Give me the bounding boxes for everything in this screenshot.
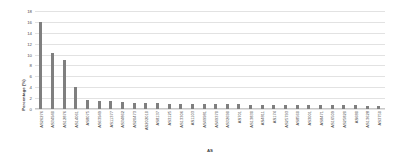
y-axis-tick-label: 16 <box>8 19 32 24</box>
x-label-slot: AS701 <box>233 110 245 148</box>
bar-slot <box>82 11 94 109</box>
bar-slot <box>256 11 268 109</box>
bar <box>377 106 380 109</box>
bar <box>203 104 206 109</box>
bar <box>156 103 159 109</box>
bar-slot <box>291 11 303 109</box>
y-axis-tick-label: 4 <box>8 85 32 90</box>
x-label-slot: AS13830 <box>245 110 257 148</box>
x-axis-tick-label: AS202010 <box>143 111 148 130</box>
x-axis-tick-label: AS8471 <box>318 111 323 126</box>
bar-slot <box>117 11 129 109</box>
bar-slot <box>245 11 257 109</box>
plot-area <box>35 11 385 109</box>
x-label-slot: AS49981 <box>198 110 210 148</box>
x-axis-tick-label: AS34862 <box>120 111 125 128</box>
x-axis-tick-label: AS63949 <box>97 111 102 128</box>
bar-slot <box>268 11 280 109</box>
bar <box>366 106 369 109</box>
x-axis-tick-label: AS4811 <box>260 111 265 125</box>
bar <box>342 105 345 109</box>
bar <box>307 105 310 109</box>
x-axis-tick-label: AS8137 <box>155 111 160 126</box>
bar <box>331 105 334 109</box>
bar-slot <box>175 11 187 109</box>
x-label-slot: AS32690 <box>222 110 234 148</box>
x-axis-tick-label: AS14061 <box>73 111 78 128</box>
x-label-slot: AS63949 <box>93 110 105 148</box>
bar-slot <box>303 11 315 109</box>
bar <box>249 105 252 109</box>
x-label-slot: AS49370 <box>210 110 222 148</box>
bar <box>261 105 264 109</box>
x-label-slot: AS12876 <box>58 110 70 148</box>
bar <box>214 104 217 109</box>
x-axis-tick-label: AS25793 <box>283 111 288 128</box>
bar-slot <box>140 11 152 109</box>
bar <box>98 101 101 109</box>
bar-series <box>35 11 385 109</box>
bar <box>237 104 240 109</box>
x-label-slot: AS3750 <box>373 110 385 148</box>
x-label-slot: AS202010 <box>140 110 152 148</box>
bar-slot <box>373 11 385 109</box>
bar <box>86 100 89 109</box>
bar-slot <box>58 11 70 109</box>
y-axis-tick-label: 12 <box>8 41 32 46</box>
x-label-slot: AS26276 <box>35 110 47 148</box>
x-axis-tick-label: AS11377 <box>108 111 113 128</box>
bar-slot <box>210 11 222 109</box>
bar-slot <box>93 11 105 109</box>
bar-slot <box>198 11 210 109</box>
bar <box>74 87 77 109</box>
bar <box>284 105 287 109</box>
x-label-slot: AS13306 <box>175 110 187 148</box>
bar <box>191 104 194 109</box>
bar-slot <box>315 11 327 109</box>
x-label-slot: AS13628 <box>361 110 373 148</box>
bar <box>39 22 42 109</box>
x-label-slot: AS25820 <box>338 110 350 148</box>
y-axis-tick-label: 14 <box>8 30 32 35</box>
x-axis-tick-labels: AS26276AS34940AS12876AS14061AS8075AS6394… <box>35 110 385 148</box>
bar <box>121 102 124 109</box>
bar-slot <box>187 11 199 109</box>
y-axis-tick-label: 8 <box>8 63 32 68</box>
bar <box>51 53 54 109</box>
bar-slot <box>47 11 59 109</box>
x-label-slot: AS3001 <box>303 110 315 148</box>
x-label-slot: AS8137 <box>152 110 164 148</box>
x-label-slot: AS25793 <box>280 110 292 148</box>
x-axis-tick-label: AS680 <box>353 111 358 123</box>
bar-slot <box>350 11 362 109</box>
bar <box>133 103 136 109</box>
x-label-slot: AS8471 <box>315 110 327 148</box>
bar-slot <box>105 11 117 109</box>
x-axis-tick-label: AS13628 <box>365 111 370 128</box>
y-axis-tick-label: 18 <box>8 9 32 14</box>
y-axis-tick-label: 10 <box>8 52 32 57</box>
x-label-slot: AS8560 <box>291 110 303 148</box>
x-axis-tick-label: AS174 <box>271 111 276 123</box>
bar-slot <box>280 11 292 109</box>
x-axis-tick-label: AS3750 <box>376 111 381 126</box>
x-axis-tick-label: AS20473 <box>132 111 137 128</box>
x-axis-tick-label: AS8075 <box>85 111 90 126</box>
y-axis-tick-label: 6 <box>8 74 32 79</box>
x-axis-tick-label: AS3125 <box>167 111 172 126</box>
x-label-slot: AS3125 <box>163 110 175 148</box>
x-label-slot: AS1103 <box>187 110 199 148</box>
x-axis-tick-label: AS49981 <box>202 111 207 128</box>
x-axis-tick-label: AS701 <box>236 111 241 123</box>
x-axis-tick-label: AS25820 <box>341 111 346 128</box>
x-axis-tick-label: AS49370 <box>213 111 218 128</box>
y-axis-tick-labels: 024681012141618 <box>6 11 33 109</box>
bar <box>296 105 299 109</box>
x-axis-tick-label: AS34940 <box>50 111 55 128</box>
bar-slot <box>222 11 234 109</box>
x-axis-tick-label: AS16509 <box>330 111 335 128</box>
y-axis-tick-label: 2 <box>8 96 32 101</box>
x-axis-title: AS <box>35 148 385 153</box>
bar <box>109 101 112 109</box>
x-axis-tick-label: AS26276 <box>38 111 43 128</box>
